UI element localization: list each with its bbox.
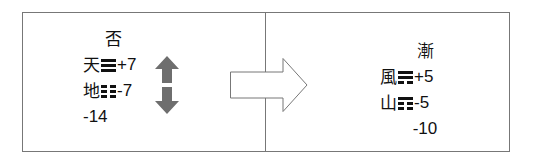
left-hexagram-name: 否 (105, 26, 122, 52)
wind-trigram-icon (398, 71, 413, 84)
mountain-trigram-icon (398, 97, 413, 110)
left-upper-value: +7 (117, 52, 136, 78)
heaven-trigram-icon (101, 59, 116, 72)
left-total-value: -14 (83, 104, 108, 130)
left-lower-value: -7 (117, 78, 132, 104)
right-upper-trigram-row: 風 +5 (380, 64, 470, 90)
left-hexagram-name-row: 否 (83, 26, 173, 52)
left-lower-char: 地 (83, 78, 100, 104)
right-hexagram-panel: 漸 風 +5 山 -5 -10 (380, 38, 470, 142)
right-lower-value: -5 (414, 90, 429, 116)
right-upper-char: 風 (380, 64, 397, 90)
up-down-arrow-icon (155, 56, 179, 114)
left-upper-char: 天 (83, 52, 100, 78)
right-total-row: -10 (380, 116, 470, 142)
right-hexagram-name: 漸 (417, 38, 434, 64)
earth-trigram-icon (101, 85, 116, 98)
right-total-value: -10 (413, 116, 438, 142)
right-arrow-icon (230, 58, 308, 112)
right-hexagram-name-row: 漸 (380, 38, 470, 64)
right-lower-char: 山 (380, 90, 397, 116)
right-upper-value: +5 (414, 64, 433, 90)
right-lower-trigram-row: 山 -5 (380, 90, 470, 116)
